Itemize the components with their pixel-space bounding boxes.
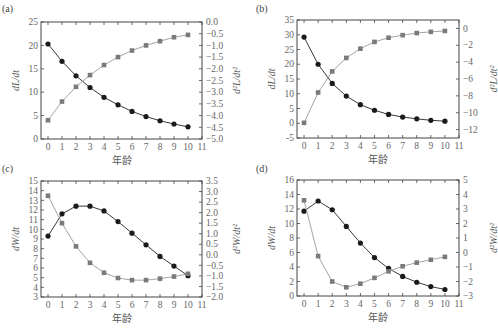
y-tick-label: 0	[33, 134, 38, 144]
y2-tick-label: −2	[463, 277, 473, 287]
y-tick-label: 5	[289, 104, 294, 114]
x-tick-label: 2	[330, 299, 335, 309]
data-point-square	[302, 121, 307, 126]
x-tick-label: 5	[116, 142, 121, 152]
x-tick-label: 0	[302, 141, 307, 151]
y2-tick-label: −2.0	[206, 292, 223, 302]
y2-tick-label: −5.0	[206, 134, 223, 144]
data-point-square	[443, 29, 448, 34]
y2-tick-label: 1.0	[206, 229, 218, 239]
y-tick-label: 0	[289, 291, 294, 301]
y-tick-label: 25	[285, 45, 295, 55]
chart-panel-c: (c)01234567891011年龄3456789101112131415dW…	[2, 163, 242, 324]
y2-tick-label: −1	[463, 262, 473, 272]
x-tick-label: 5	[372, 141, 377, 151]
data-point-square	[60, 99, 65, 104]
data-point-square	[400, 33, 405, 38]
y-tick-label: -5	[286, 133, 294, 143]
x-tick-label: 0	[46, 300, 51, 310]
data-point-circle	[414, 280, 419, 285]
data-point-circle	[129, 231, 134, 236]
y2-tick-label: −2.0	[206, 64, 223, 74]
data-point-square	[372, 276, 377, 281]
data-point-circle	[115, 102, 120, 107]
x-tick-label: 9	[172, 142, 177, 152]
y-tick-label: 12	[285, 204, 295, 214]
panel-label: (b)	[256, 3, 268, 15]
y-tick-label: 2	[289, 277, 294, 287]
y2-tick-label: 0	[463, 248, 468, 258]
data-point-square	[330, 279, 335, 284]
y2-tick-label: 0.0	[206, 250, 218, 260]
y2-tick-label: −3	[463, 291, 473, 301]
x-tick-label: 6	[130, 142, 135, 152]
y-tick-label: 10	[29, 87, 39, 97]
x-tick-label: 1	[316, 141, 321, 151]
plot-frame	[297, 180, 459, 296]
y-axis-title: dL/dt	[266, 68, 277, 89]
x-tick-label: 10	[440, 299, 450, 309]
data-point-circle	[59, 211, 64, 216]
data-point-circle	[358, 102, 363, 107]
data-point-circle	[442, 287, 447, 292]
x-tick-label: 2	[74, 142, 79, 152]
y-tick-label: 5	[33, 111, 38, 121]
data-point-square	[429, 257, 434, 262]
data-point-circle	[73, 204, 78, 209]
data-point-circle	[372, 255, 377, 260]
data-point-square	[358, 46, 363, 51]
x-tick-label: 9	[428, 141, 433, 151]
x-tick-label: 10	[440, 141, 450, 151]
y2-tick-label: −8	[463, 91, 473, 101]
y2-tick-label: −12	[463, 125, 478, 135]
plot-frame	[41, 181, 202, 297]
y2-tick-label: 3.5	[206, 176, 218, 186]
data-point-circle	[157, 118, 162, 123]
y2-tick-label: −0.5	[206, 29, 223, 39]
y-tick-label: 14	[29, 186, 39, 196]
data-point-circle	[414, 116, 419, 121]
x-tick-label: 10	[183, 142, 193, 152]
y-tick-label: 15	[29, 176, 39, 186]
data-point-square	[429, 30, 434, 35]
data-point-circle	[400, 274, 405, 279]
series-line	[48, 196, 188, 280]
x-tick-label: 4	[102, 142, 107, 152]
y-axis-title: dW/dt	[266, 226, 277, 250]
y-tick-label: 8	[289, 233, 294, 243]
data-point-circle	[428, 284, 433, 289]
data-point-square	[130, 278, 135, 283]
x-tick-label: 2	[330, 141, 335, 151]
x-tick-label: 7	[400, 141, 405, 151]
data-point-circle	[129, 109, 134, 114]
y-tick-label: 3	[33, 292, 38, 302]
data-point-circle	[143, 242, 148, 247]
chart-panel-a: (a)01234567891011年龄0510152025dL/dt0.0−0.…	[2, 3, 242, 166]
data-point-square	[74, 244, 79, 249]
data-point-square	[116, 276, 121, 281]
x-axis-title: 年龄	[368, 153, 388, 165]
y2-tick-label: 4	[463, 190, 468, 200]
x-tick-label: 8	[414, 141, 419, 151]
data-point-square	[74, 85, 79, 90]
data-point-circle	[442, 119, 447, 124]
data-point-circle	[400, 114, 405, 119]
data-point-circle	[45, 41, 50, 46]
y2-tick-label: 3.0	[206, 187, 218, 197]
y-tick-label: 25	[29, 17, 39, 27]
data-point-circle	[428, 118, 433, 123]
y2-tick-label: 0.0	[206, 17, 218, 27]
data-point-circle	[316, 198, 321, 203]
data-point-circle	[344, 224, 349, 229]
y-tick-label: 0	[289, 118, 294, 128]
data-point-square	[372, 40, 377, 45]
y2-axis-title: d²W/dt²	[488, 222, 498, 253]
data-point-square	[46, 193, 51, 198]
data-point-square	[172, 274, 177, 279]
y2-tick-label: −10	[463, 108, 478, 118]
data-point-circle	[171, 121, 176, 126]
data-point-square	[158, 39, 163, 44]
y2-tick-label: 0.5	[206, 239, 218, 249]
x-tick-label: 8	[158, 142, 163, 152]
x-tick-label: 6	[130, 300, 135, 310]
